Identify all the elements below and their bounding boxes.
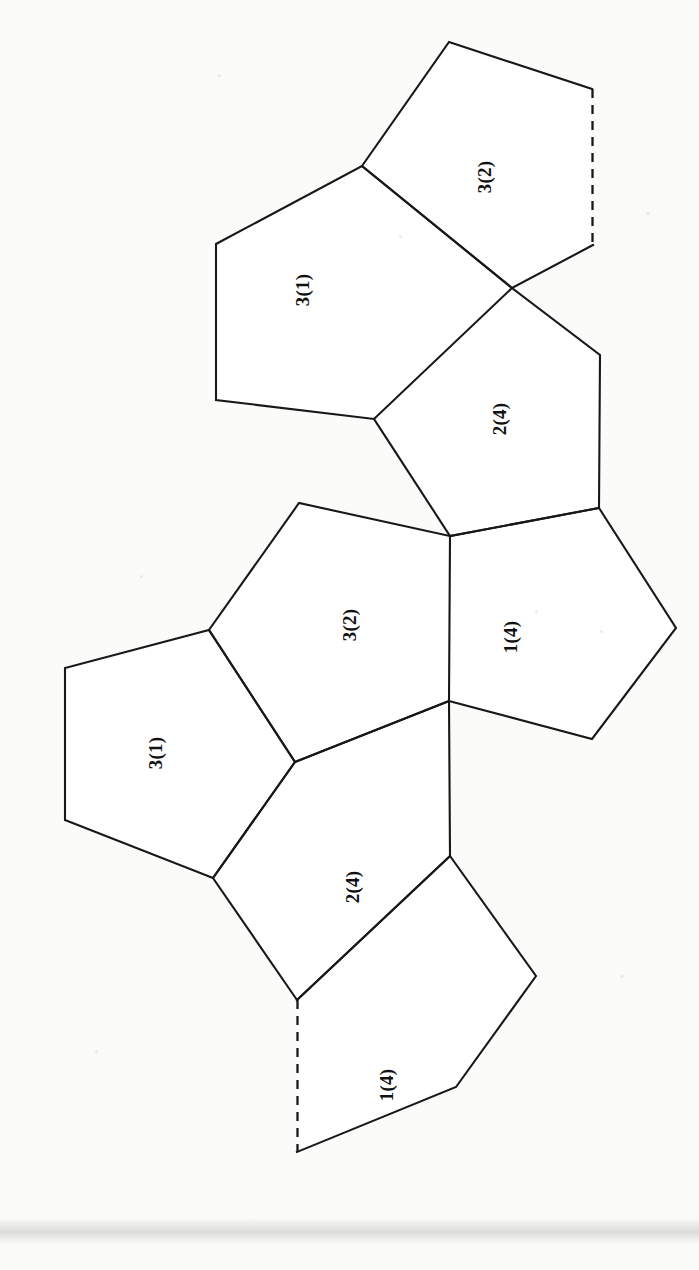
- pentagon-face-label: 3(1): [145, 737, 167, 769]
- pentagon-net-diagram: 3(2)3(1)2(4)3(2)1(4)3(1)2(4)1(4): [0, 0, 699, 1270]
- pentagon-face-label: 2(4): [342, 871, 364, 903]
- faces-fill-layer: [65, 42, 676, 1152]
- pentagon-face-body: [449, 508, 676, 739]
- pentagon-face-label: 3(2): [474, 161, 496, 193]
- figure-page: 3(2)3(1)2(4)3(2)1(4)3(1)2(4)1(4): [0, 0, 699, 1270]
- pentagon-face-label: 3(2): [339, 609, 361, 641]
- pentagon-face-label: 2(4): [489, 403, 511, 435]
- pentagon-face-label: 1(4): [376, 1069, 398, 1101]
- pentagon-face-label: 3(1): [292, 274, 314, 306]
- pentagon-face-label: 1(4): [500, 621, 522, 653]
